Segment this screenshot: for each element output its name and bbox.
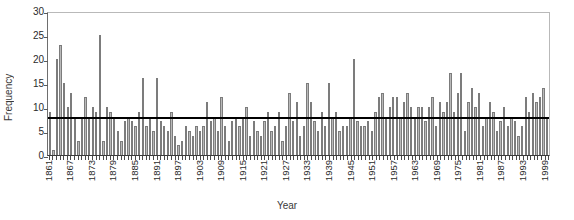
bar bbox=[546, 117, 548, 155]
y-axis-tick-mark bbox=[44, 13, 48, 14]
x-axis-tick-label: 1957 bbox=[389, 160, 399, 181]
x-axis-tick-label: 1873 bbox=[87, 160, 97, 181]
y-axis-tick-mark bbox=[44, 133, 48, 134]
y-axis-tick-label: 10 bbox=[18, 103, 44, 113]
y-axis-tick-mark bbox=[44, 61, 48, 62]
y-axis-title: Frequency bbox=[1, 52, 15, 142]
x-axis-tick-label: 1897 bbox=[173, 160, 183, 181]
y-axis-tick-label: 25 bbox=[18, 31, 44, 41]
x-axis-tick-label: 1891 bbox=[152, 160, 162, 181]
x-axis-tick-label: 1933 bbox=[302, 160, 312, 181]
y-axis-tick-mark bbox=[44, 109, 48, 110]
x-axis-tick-label: 1969 bbox=[432, 160, 442, 181]
bar-slot bbox=[545, 13, 549, 155]
x-axis-tick-label: 1981 bbox=[475, 160, 485, 181]
x-axis-title: Year bbox=[0, 200, 574, 211]
x-axis-tick-label: 1885 bbox=[130, 160, 140, 181]
x-axis-tick-label: 1867 bbox=[65, 160, 75, 181]
x-axis-tick-label: 1993 bbox=[518, 160, 528, 181]
x-axis-tick-label: 1939 bbox=[324, 160, 334, 181]
x-axis-tick-label: 1963 bbox=[410, 160, 420, 181]
x-axis-tick-labels: 1861186718731879188518911897190319091915… bbox=[47, 160, 550, 196]
y-axis-tick-labels: 051015202530 bbox=[16, 0, 44, 220]
frequency-by-year-bar-chart: Frequency 051015202530 18611867187318791… bbox=[0, 0, 574, 220]
reference-line bbox=[48, 117, 549, 119]
x-axis-tick-label: 1861 bbox=[44, 160, 54, 181]
y-axis-tick-mark bbox=[44, 37, 48, 38]
y-axis-tick-label: 0 bbox=[18, 151, 44, 161]
x-axis-tick-label: 1927 bbox=[281, 160, 291, 181]
plot-area bbox=[47, 12, 550, 156]
y-axis-tick-label: 15 bbox=[18, 79, 44, 89]
x-axis-tick-label: 1999 bbox=[540, 160, 550, 181]
x-axis-tick-label: 1975 bbox=[453, 160, 463, 181]
x-axis-tick-label: 1951 bbox=[367, 160, 377, 181]
plot-inner bbox=[48, 13, 549, 155]
bar-series bbox=[48, 13, 549, 155]
x-axis-tick-label: 1903 bbox=[195, 160, 205, 181]
y-axis-tick-mark bbox=[44, 85, 48, 86]
y-axis-tick-label: 5 bbox=[18, 127, 44, 137]
y-axis-tick-label: 30 bbox=[18, 7, 44, 17]
x-axis-tick-label: 1921 bbox=[259, 160, 269, 181]
x-axis-tick-label: 1909 bbox=[216, 160, 226, 181]
x-axis-tick-label: 1987 bbox=[496, 160, 506, 181]
x-axis-tick-label: 1879 bbox=[108, 160, 118, 181]
x-axis-tick-label: 1915 bbox=[238, 160, 248, 181]
x-axis-tick-label: 1945 bbox=[346, 160, 356, 181]
y-axis-tick-label: 20 bbox=[18, 55, 44, 65]
